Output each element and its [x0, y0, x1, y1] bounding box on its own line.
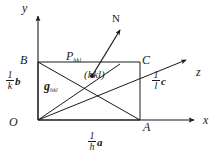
- c-fraction-denominator: l: [154, 81, 159, 91]
- a-fraction-stack: 1 h: [88, 131, 96, 152]
- c-fraction-numerator: 1: [153, 70, 160, 80]
- figure-vector-graphics: [0, 0, 217, 160]
- plane-indices-label: (hkl): [84, 69, 105, 80]
- crystal-plane-figure: y x z O A B C N Phkl (hkl) ghkl 1 k b 1 …: [0, 0, 217, 160]
- a-basis-vector: a: [97, 136, 103, 148]
- b-fraction-denominator: k: [7, 81, 13, 91]
- b-fraction-numerator: 1: [7, 70, 14, 80]
- a-intercept-label: A: [143, 121, 150, 133]
- c-fraction-stack: 1 l: [152, 70, 160, 91]
- plane-point-label: Phkl: [66, 50, 81, 62]
- plane-point-subscript: hkl: [73, 57, 81, 63]
- a-fraction-numerator: 1: [89, 131, 96, 141]
- c-intercept-fraction: 1 l c: [152, 70, 166, 91]
- a-fraction-denominator: h: [89, 142, 96, 152]
- origin-label: O: [9, 116, 18, 128]
- b-fraction-stack: 1 k: [6, 70, 14, 91]
- g-vector-label: ghkl: [44, 80, 58, 92]
- b-intercept-label: B: [20, 54, 27, 66]
- a-intercept-fraction: 1 h a: [88, 131, 103, 152]
- b-basis-vector: b: [15, 75, 21, 87]
- y-axis-label: y: [22, 2, 27, 14]
- b-intercept-fraction: 1 k b: [6, 70, 21, 91]
- g-vector-subscript: hkl: [50, 87, 58, 93]
- x-axis-label: x: [203, 114, 208, 126]
- c-basis-vector: c: [161, 75, 166, 87]
- normal-vector-label: N: [112, 13, 120, 24]
- c-intercept-label: C: [142, 54, 150, 66]
- z-axis-label: z: [196, 66, 201, 78]
